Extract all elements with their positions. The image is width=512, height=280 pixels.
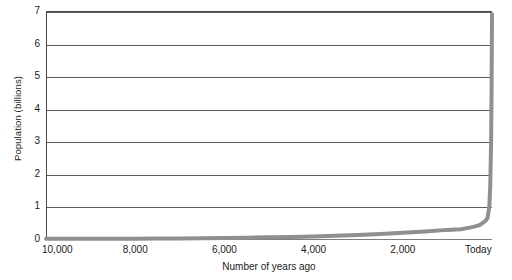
x-axis-tick-labels: 10,0008,0006,0004,0002,000Today bbox=[0, 244, 512, 258]
y-tick-label: 2 bbox=[6, 169, 40, 179]
y-tick-label: 6 bbox=[6, 39, 40, 49]
y-tick-label: 5 bbox=[6, 71, 40, 81]
y-tick-label: 3 bbox=[6, 136, 40, 146]
x-tick-label: 2,000 bbox=[390, 244, 415, 256]
population-curve bbox=[46, 11, 492, 239]
y-tick-label: 1 bbox=[6, 201, 40, 211]
x-tick-label: 10,000 bbox=[42, 244, 73, 256]
population-line-chart: Population (billions) 76543210 10,0008,0… bbox=[0, 0, 512, 280]
y-axis-tick-labels: 76543210 bbox=[0, 0, 40, 280]
population-curve-path bbox=[46, 14, 492, 239]
x-tick-label: Today bbox=[465, 244, 492, 256]
y-tick-label: 0 bbox=[6, 234, 40, 244]
x-tick-label: 8,000 bbox=[123, 244, 148, 256]
x-tick-label: 6,000 bbox=[212, 244, 237, 256]
x-tick-label: 4,000 bbox=[301, 244, 326, 256]
y-tick-label: 7 bbox=[6, 6, 40, 16]
y-tick-label: 4 bbox=[6, 104, 40, 114]
x-axis-title: Number of years ago bbox=[46, 261, 492, 272]
